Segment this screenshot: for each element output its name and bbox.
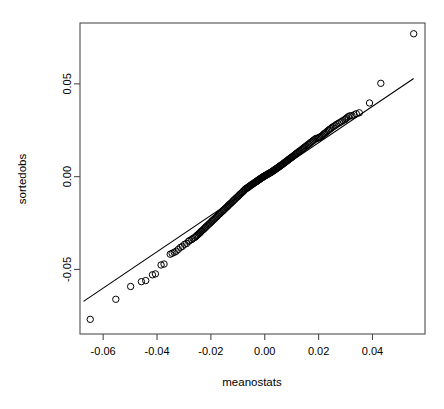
y-tick-label: 0.00 [61, 166, 73, 187]
qq-plot-figure: -0.06-0.04-0.020.000.020.04 -0.050.000.0… [0, 0, 444, 409]
y-tick-label: -0.05 [61, 257, 73, 282]
y-tick-label: 0.05 [61, 73, 73, 94]
y-axis-title: sortedobs [16, 154, 28, 205]
plot-canvas: -0.06-0.04-0.020.000.020.04 -0.050.000.0… [0, 0, 444, 409]
x-tick-label: -0.06 [91, 345, 116, 357]
x-tick-label: 0.04 [362, 345, 383, 357]
x-tick-label: -0.02 [198, 345, 223, 357]
x-axis-title: meanostats [222, 376, 282, 388]
x-tick-label: -0.04 [144, 345, 169, 357]
x-tick-label: 0.00 [254, 345, 275, 357]
x-tick-label: 0.02 [308, 345, 329, 357]
